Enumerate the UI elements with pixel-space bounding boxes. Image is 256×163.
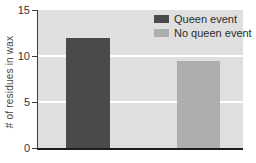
legend-item: Queen event [154, 12, 252, 26]
legend-swatch [154, 15, 169, 23]
y-tick-label: 10 [18, 51, 30, 62]
legend: Queen eventNo queen event [154, 12, 252, 40]
legend-item: No queen event [154, 26, 252, 40]
bar-no-queen-event [177, 61, 220, 148]
y-tick-label: 0 [24, 143, 30, 154]
y-tick-label: 5 [24, 97, 30, 108]
legend-swatch [154, 29, 169, 37]
legend-label: Queen event [174, 13, 237, 25]
y-axis: 051015 [0, 10, 37, 148]
y-tick-label: 15 [18, 5, 30, 16]
bar-chart-figure: # of residues in wax 051015 Queen eventN… [0, 0, 256, 163]
bar-queen-event [66, 38, 110, 148]
legend-label: No queen event [174, 27, 252, 39]
